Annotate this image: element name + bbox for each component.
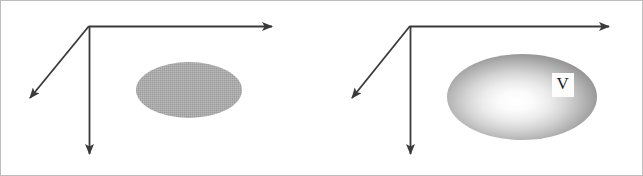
flat-gray-ellipse [136,62,242,118]
figure-root: V [0,0,643,176]
figure-canvas [0,0,643,176]
volume-label-v: V [552,73,574,97]
shaded-gradient-ellipse [447,54,597,140]
